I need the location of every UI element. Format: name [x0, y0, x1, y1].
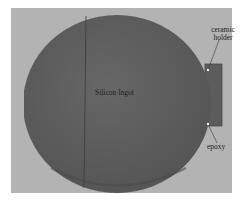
- epoxy-marker: [207, 123, 209, 125]
- ceramic-marker: [207, 69, 209, 71]
- photo: [11, 8, 232, 193]
- silicon-ingot-label: Silicon Ingot: [95, 89, 134, 97]
- silicon-ingot: [23, 15, 211, 193]
- epoxy-leader-line: [208, 124, 217, 143]
- ceramic-holder-label: ceramic holder: [205, 26, 241, 42]
- ingot-illustration: [11, 8, 232, 193]
- epoxy-label: epoxy: [207, 143, 225, 151]
- ceramic-label-line2: holder: [205, 34, 241, 42]
